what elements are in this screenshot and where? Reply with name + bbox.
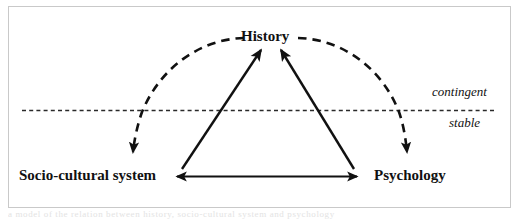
zone-label-contingent: contingent: [432, 84, 487, 100]
zone-label-stable: stable: [449, 115, 480, 131]
node-label-history: History: [241, 28, 289, 45]
socio-to-history-arrow: [182, 50, 261, 169]
psychology-to-history-arrow: [281, 50, 354, 169]
node-label-psychology: Psychology: [374, 167, 446, 184]
history-to-socio-arc: [133, 38, 244, 152]
node-label-socio-cultural-system: Socio-cultural system: [19, 167, 156, 184]
figure-root: History Socio-cultural system Psychology…: [0, 0, 520, 219]
history-to-psychology-arc: [298, 38, 407, 152]
clipped-caption: a model of the relation between history,…: [8, 210, 511, 219]
